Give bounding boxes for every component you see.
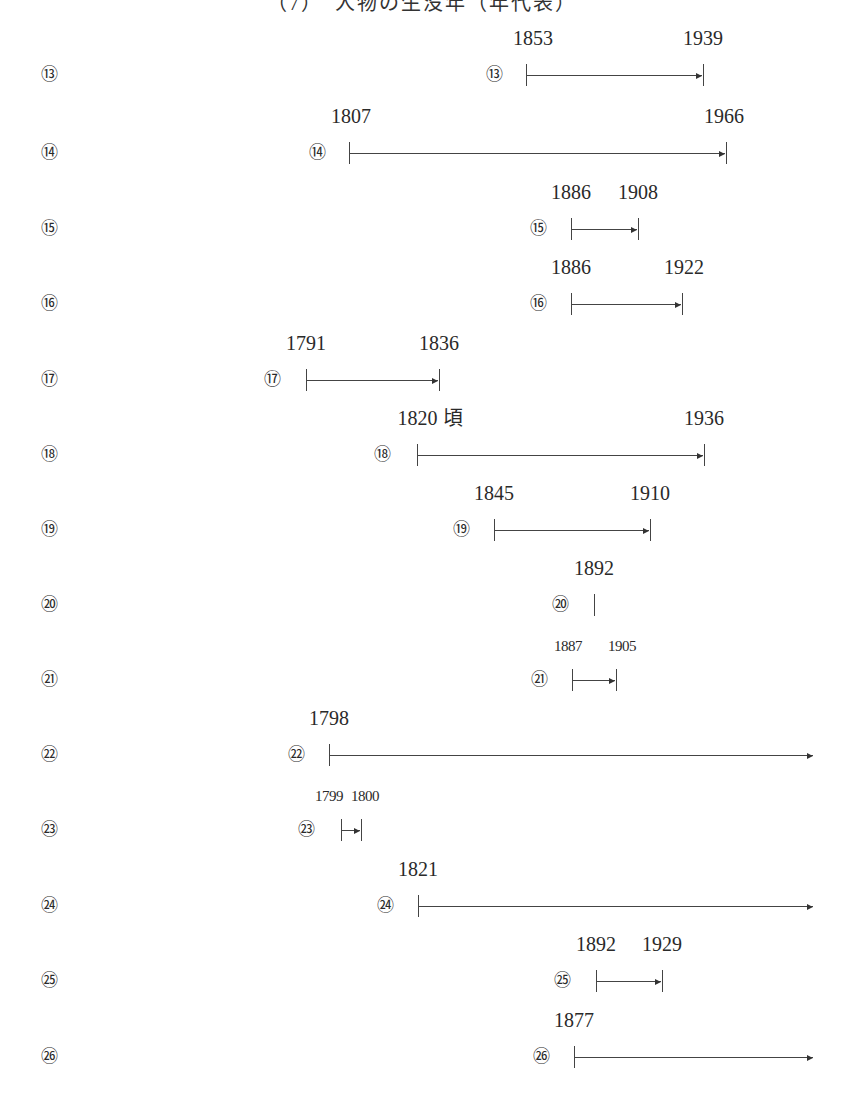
arrow-icon <box>807 904 813 910</box>
row-marker: ㉖ <box>529 1047 553 1067</box>
death-year: 1966 <box>704 105 744 127</box>
row-marker: ⑱ <box>370 445 394 465</box>
row-number-label: ㉒ <box>38 745 60 765</box>
death-year: 1800 <box>351 785 379 807</box>
birth-year: 1820 頃 <box>398 407 463 429</box>
row-marker: ⑮ <box>526 219 550 239</box>
arrow-icon <box>807 1055 813 1061</box>
death-year: 1836 <box>419 332 459 354</box>
start-tick <box>594 594 595 616</box>
end-tick <box>650 519 651 541</box>
row-number-label: ⑬ <box>38 65 60 85</box>
arrow-icon <box>354 828 360 834</box>
row-marker: ㉔ <box>373 896 397 916</box>
birth-year: 1877 <box>554 1009 594 1031</box>
lifespan-line <box>349 153 725 154</box>
lifespan-line <box>494 530 649 531</box>
lifespan-line <box>596 981 661 982</box>
row-marker: ㉑ <box>527 670 551 690</box>
row-number-label: ⑲ <box>38 520 60 540</box>
end-tick <box>704 444 705 466</box>
death-year: 1939 <box>683 27 723 49</box>
end-tick <box>638 218 639 240</box>
birth-year: 1799 <box>315 785 343 807</box>
row-marker: ⑯ <box>526 294 550 314</box>
arrow-icon <box>719 151 725 157</box>
end-tick <box>439 369 440 391</box>
arrow-icon <box>609 678 615 684</box>
lifespan-line <box>571 304 681 305</box>
end-tick <box>726 142 727 164</box>
end-tick <box>662 970 663 992</box>
row-number-label: ⑯ <box>38 294 60 314</box>
death-year: 1908 <box>618 181 658 203</box>
row-number-label: ㉕ <box>38 971 60 991</box>
lifespan-line <box>417 455 703 456</box>
row-number-label: ㉑ <box>38 670 60 690</box>
arrow-icon <box>807 753 813 759</box>
birth-year: 1821 <box>398 858 438 880</box>
row-number-label: ⑮ <box>38 219 60 239</box>
row-number-label: ㉓ <box>38 820 60 840</box>
row-marker: ⑳ <box>548 595 572 615</box>
birth-year: 1892 <box>576 933 616 955</box>
row-number-label: ⑰ <box>38 370 60 390</box>
row-marker: ⑭ <box>305 143 329 163</box>
row-marker: ㉕ <box>550 971 574 991</box>
arrow-icon <box>643 528 649 534</box>
birth-year: 1886 <box>551 256 591 278</box>
lifespan-line <box>571 229 637 230</box>
birth-year: 1798 <box>309 707 349 729</box>
arrow-icon <box>696 73 702 79</box>
row-marker: ⑲ <box>449 520 473 540</box>
arrow-icon <box>432 378 438 384</box>
page-title-fragment: （7） 人物の生没年（年代表） <box>0 0 844 16</box>
row-marker: ⑰ <box>260 370 284 390</box>
lifespan-line <box>418 906 813 907</box>
birth-year: 1887 <box>554 635 582 657</box>
arrow-icon <box>655 979 661 985</box>
row-marker: ⑬ <box>482 65 506 85</box>
lifespan-line <box>526 75 702 76</box>
death-year: 1936 <box>684 407 724 429</box>
end-tick <box>703 64 704 86</box>
lifespan-line <box>329 755 813 756</box>
birth-year: 1845 <box>474 482 514 504</box>
arrow-icon <box>675 302 681 308</box>
row-number-label: ㉔ <box>38 896 60 916</box>
birth-year: 1807 <box>331 105 371 127</box>
lifespan-line <box>306 380 438 381</box>
birth-year: 1886 <box>551 181 591 203</box>
row-marker: ㉒ <box>284 745 308 765</box>
row-number-label: ⑭ <box>38 143 60 163</box>
death-year: 1905 <box>608 635 636 657</box>
arrow-icon <box>631 227 637 233</box>
end-tick <box>682 293 683 315</box>
end-tick <box>616 669 617 691</box>
death-year: 1922 <box>664 256 704 278</box>
lifespan-line <box>574 1057 813 1058</box>
end-tick <box>361 819 362 841</box>
arrow-icon <box>697 453 703 459</box>
row-marker: ㉓ <box>294 820 318 840</box>
death-year: 1929 <box>642 933 682 955</box>
row-number-label: ⑳ <box>38 595 60 615</box>
row-number-label: ⑱ <box>38 445 60 465</box>
birth-year: 1892 <box>574 557 614 579</box>
death-year: 1910 <box>630 482 670 504</box>
birth-year: 1791 <box>286 332 326 354</box>
birth-year: 1853 <box>513 27 553 49</box>
row-number-label: ㉖ <box>38 1047 60 1067</box>
